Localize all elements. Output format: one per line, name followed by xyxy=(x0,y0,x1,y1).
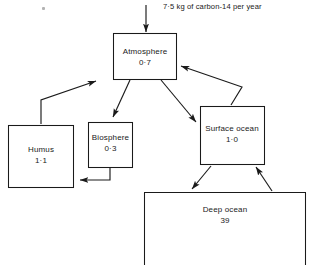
arrow-deep-ocean-to-surface-ocean xyxy=(256,167,272,191)
box-biosphere xyxy=(89,123,133,168)
box-surface-ocean xyxy=(201,107,265,165)
box-deep-ocean xyxy=(145,193,306,265)
box-atmosphere xyxy=(114,34,177,80)
diagram-graphics xyxy=(0,0,317,265)
arrow-atmosphere-to-surface-ocean xyxy=(161,80,196,122)
input-flux-label: 7·5 kg of carbon-14 per year xyxy=(163,2,262,11)
arrow-humus-to-atmosphere xyxy=(41,81,96,124)
arrow-biosphere-to-humus xyxy=(80,168,110,180)
diagram-canvas: 7·5 kg of carbon-14 per year Atmosphere … xyxy=(0,0,317,265)
box-humus xyxy=(9,126,74,188)
arrow-atmosphere-to-biosphere xyxy=(113,80,130,117)
arrow-surface-ocean-to-atmosphere xyxy=(181,66,242,105)
arrow-surface-ocean-to-deep-ocean xyxy=(192,166,211,189)
